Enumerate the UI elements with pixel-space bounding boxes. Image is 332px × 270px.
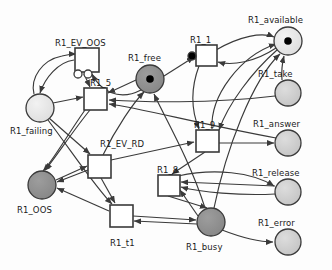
place-R1_available[interactable] (274, 27, 302, 55)
place-R1_OOS[interactable] (28, 171, 56, 199)
arc-layer (33, 35, 284, 242)
arc-R1_busy-to-R1_error (222, 230, 273, 242)
inhibitor-arc-icon (74, 70, 82, 78)
transition-label-R1_5: R1_5 (90, 79, 111, 88)
arc-R1_OOS-to-R1_EV_RD (56, 166, 87, 180)
arc-R1_busy-to-R1_8 (180, 190, 198, 216)
arc-R1_free-to-R1_5 (108, 80, 136, 93)
transition-R1_1[interactable] (188, 45, 217, 66)
transition-R1_5[interactable] (84, 88, 107, 110)
inhibitor-arc-icon (84, 70, 92, 78)
arc-R1_answer-to-R1_5 (109, 104, 276, 138)
transition-box (110, 205, 133, 227)
place-label-R1_release: R1_release (252, 169, 300, 178)
place-circle (275, 229, 301, 255)
transition-box (88, 155, 111, 178)
transition-box (75, 48, 99, 72)
transition-label-R1_8: R1_8 (157, 166, 178, 175)
place-circle (28, 171, 56, 199)
place-R1_busy[interactable] (197, 208, 225, 236)
arc-R1_EV_OOS-to-R1_failing (40, 60, 74, 93)
place-R1_answer[interactable] (275, 130, 301, 156)
transition-box (196, 130, 219, 152)
token-dot (284, 37, 292, 45)
place-circle (26, 94, 54, 122)
place-R1_failing[interactable] (26, 94, 54, 122)
transition-R1_EV_RD[interactable] (88, 155, 111, 178)
arc-R1_busy-to-R1_t1 (134, 221, 197, 224)
place-label-R1_take: R1_take (258, 70, 293, 79)
place-circle (275, 130, 301, 156)
inhibitor-arc-icon (188, 52, 196, 60)
transition-label-R1_1: R1_1 (190, 36, 211, 45)
arc-R1_available-to-R1_1 (218, 48, 276, 63)
place-R1_free[interactable] (136, 65, 164, 93)
place-circle (275, 80, 301, 106)
place-label-R1_answer: R1_answer (253, 120, 300, 129)
transition-box (158, 175, 180, 196)
transition-label-R1_t1: R1_t1 (110, 239, 135, 248)
arc-R1_failing-to-R1_5 (53, 97, 83, 103)
transition-box (84, 88, 107, 110)
place-label-R1_available: R1_available (248, 16, 303, 25)
arc-R1_available-to-R1_9 (219, 50, 277, 130)
transition-box (196, 45, 217, 66)
place-label-R1_error: R1_error (258, 219, 295, 228)
transition-R1_EV_OOS[interactable] (74, 48, 99, 78)
transition-R1_t1[interactable] (110, 205, 133, 227)
transition-R1_9[interactable] (196, 130, 219, 152)
arc-R1_release-to-R1_8 (181, 182, 275, 186)
transition-label-R1_EV_OOS: R1_EV_OOS (55, 39, 106, 48)
place-circle (275, 179, 301, 205)
place-label-R1_busy: R1_busy (186, 243, 223, 252)
place-R1_release[interactable] (275, 179, 301, 205)
token-dot (146, 75, 154, 83)
place-label-R1_failing: R1_failing (10, 127, 53, 136)
place-R1_take[interactable] (275, 80, 301, 106)
place-label-R1_free: R1_free (128, 54, 161, 63)
transition-label-R1_9: R1_9 (194, 121, 215, 130)
petri-net-diagram: R1_availableR1_freeR1_takeR1_failingR1_a… (0, 0, 332, 270)
arc-R1_release-to-R1_8 (181, 187, 275, 195)
place-label-R1_OOS: R1_OOS (17, 206, 52, 215)
arc-R1_5-to-R1_OOS (45, 110, 90, 170)
arc-R1_failing-to-R1_EV_OOS (33, 54, 76, 94)
place-circle (197, 208, 225, 236)
arc-R1_t1-to-R1_busy (133, 216, 196, 220)
transition-label-R1_EV_RD: R1_EV_RD (100, 140, 144, 149)
arc-R1_EV_RD-to-R1_OOS (57, 170, 88, 182)
transition-R1_8[interactable] (158, 175, 180, 196)
place-R1_error[interactable] (275, 229, 301, 255)
